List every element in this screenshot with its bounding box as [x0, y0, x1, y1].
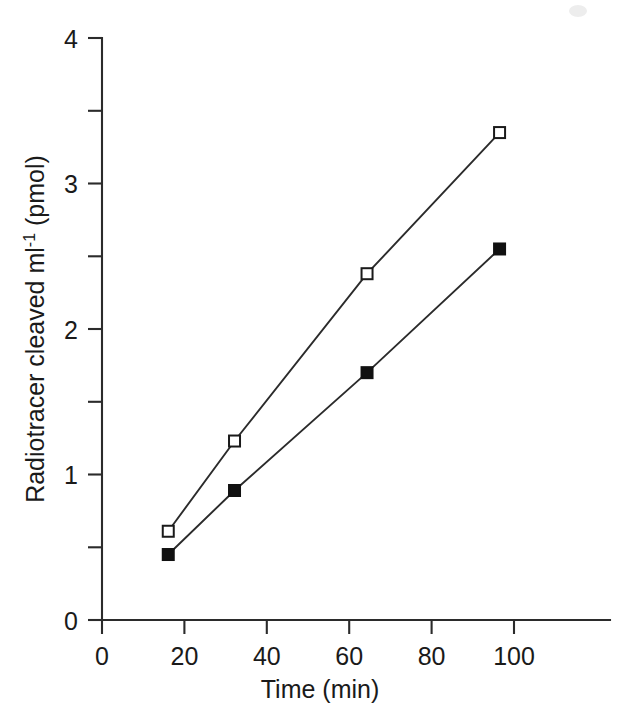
line-chart: 0 1 2 3 4 0 20 40 60 80 100 Time (min) R…	[0, 0, 634, 705]
data-point-filled-squares-30min	[229, 485, 240, 496]
y-axis-title-main: Radiotracer cleaved ml	[21, 247, 49, 503]
y-axis-ticks	[88, 38, 102, 620]
x-tick-label-40: 40	[253, 642, 281, 670]
series-open-squares	[163, 127, 505, 537]
data-point-open-squares-90min	[494, 127, 505, 138]
series-line-open-squares	[168, 133, 499, 532]
y-axis-title-units: (pmol)	[21, 155, 49, 233]
x-tick-labels: 0 20 40 60 80 100	[95, 642, 535, 670]
data-point-filled-squares-90min	[494, 243, 505, 254]
y-tick-label-4: 4	[64, 25, 78, 53]
data-point-filled-squares-15min	[163, 549, 174, 560]
data-series-layer	[163, 127, 505, 560]
data-point-open-squares-15min	[163, 526, 174, 537]
x-tick-label-80: 80	[418, 642, 446, 670]
data-point-open-squares-30min	[229, 436, 240, 447]
scan-artifact-speck	[569, 5, 587, 17]
figure-canvas: 0 1 2 3 4 0 20 40 60 80 100 Time (min) R…	[0, 0, 634, 705]
y-tick-label-0: 0	[64, 607, 78, 635]
y-axis-title-group: Radiotracer cleaved ml-1 (pmol)	[21, 155, 49, 503]
y-tick-label-2: 2	[64, 316, 78, 344]
y-axis-title-superscript: -1	[21, 233, 38, 247]
x-tick-label-0: 0	[95, 642, 109, 670]
y-axis-title: Radiotracer cleaved ml-1 (pmol)	[21, 155, 49, 503]
data-point-filled-squares-60min	[362, 367, 373, 378]
x-tick-label-60: 60	[335, 642, 363, 670]
y-tick-label-3: 3	[64, 170, 78, 198]
caption-sliver	[0, 698, 634, 705]
y-tick-label-1: 1	[64, 461, 78, 489]
x-axis-ticks	[102, 620, 514, 634]
axes-group	[102, 38, 610, 620]
series-filled-squares	[163, 243, 505, 560]
y-tick-labels: 0 1 2 3 4	[64, 25, 78, 635]
x-tick-label-20: 20	[170, 642, 198, 670]
x-tick-label-100: 100	[493, 642, 535, 670]
series-line-filled-squares	[168, 249, 499, 555]
data-point-open-squares-60min	[362, 268, 373, 279]
